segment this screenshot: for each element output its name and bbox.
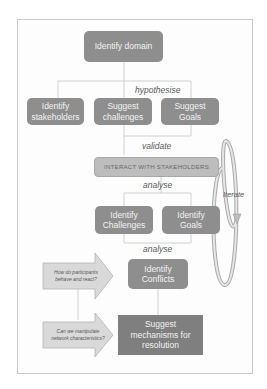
question-network: Can we manipulate network characteristic… — [44, 328, 112, 342]
label-validate: validate — [142, 141, 171, 151]
question-behaviour: How do participants behave and react? — [45, 269, 107, 283]
node-identify-challenges: Identify Challenges — [95, 206, 153, 234]
node-suggest-challenges: Suggest challenges — [94, 98, 152, 125]
connector-analyse2-bracket — [124, 234, 191, 243]
node-identify-goals: Identify Goals — [162, 206, 220, 234]
node-suggest-mechanisms: Suggest mechanisms for resolution — [118, 315, 203, 355]
connector-validate-bracket — [124, 125, 191, 136]
label-analyse-1: analyse — [143, 180, 172, 190]
node-identify-conflicts: Identify Conflicts — [128, 259, 188, 289]
node-identify-stakeholders: Identify stakeholders — [27, 98, 84, 125]
label-hypothesise: hypothesise — [135, 85, 180, 95]
node-interact-with-stakeholders: Interact with Stakeholders — [94, 157, 219, 177]
node-suggest-goals: Suggest Goals — [161, 98, 219, 125]
label-iterate: Iterate — [223, 190, 244, 199]
connector-analyse-bracket — [124, 193, 191, 206]
node-identify-domain: Identify domain — [84, 31, 163, 62]
label-analyse-2: analyse — [143, 244, 172, 254]
